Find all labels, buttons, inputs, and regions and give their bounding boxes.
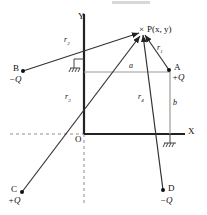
charge-label-C: C <box>11 185 17 194</box>
charge-value-D: −Q <box>160 196 173 205</box>
diagram-canvas <box>0 0 207 215</box>
charge-dot-C <box>20 190 24 194</box>
distance-sub-r1: 1 <box>160 49 163 54</box>
point-p-label: P(x, y) <box>147 25 172 34</box>
hatch-symbol-right <box>163 134 176 147</box>
charge-value-C: +Q <box>8 196 21 205</box>
distance-label-r3: r3 <box>65 93 71 103</box>
hatch-symbol-left <box>69 59 84 72</box>
physics-diagram: Y X O × P(x, y) A +Q B −Q C +Q D −Q r1 r… <box>0 0 207 215</box>
charge-label-D: D <box>168 184 175 193</box>
origin-label: O <box>75 135 82 144</box>
x-axis-label: X <box>188 127 195 136</box>
distance-label-r2: r2 <box>64 36 70 46</box>
charge-label-B: B <box>13 64 19 73</box>
distance-sub-r2: 2 <box>67 41 70 46</box>
dimension-label-a: a <box>129 62 133 70</box>
distance-sub-r3: 3 <box>68 98 71 103</box>
charge-label-A: A <box>174 63 181 72</box>
vector-r4-D-to-P <box>143 35 163 190</box>
charge-dot-D <box>161 188 165 192</box>
dimension-label-b: b <box>173 99 177 107</box>
charge-dot-B <box>21 69 25 73</box>
distance-label-r4: r4 <box>138 93 144 103</box>
distance-sub-r4: 4 <box>141 98 144 103</box>
charge-value-A: +Q <box>172 73 185 82</box>
y-axis-label: Y <box>78 12 85 21</box>
point-p-marker: × <box>139 25 144 34</box>
charge-dot-A <box>167 68 171 72</box>
vector-r2-B-to-P <box>23 33 139 71</box>
distance-label-r1: r1 <box>157 44 163 54</box>
charge-value-B: −Q <box>9 75 22 84</box>
